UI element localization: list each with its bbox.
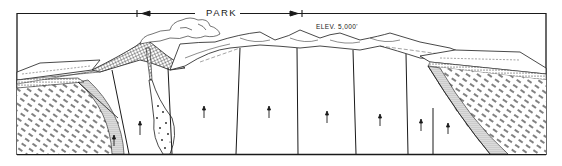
right-tilted-strata xyxy=(428,66,546,154)
arrow-up-icon xyxy=(379,114,382,126)
arrow-up-icon xyxy=(203,106,206,118)
arrow-up-icon xyxy=(268,106,271,118)
arrow-right-icon xyxy=(290,11,298,16)
arrow-up-icon xyxy=(326,111,329,123)
park-label: PARK xyxy=(206,8,237,18)
park-extent-arrow xyxy=(17,10,546,17)
arrow-up-icon xyxy=(420,119,423,131)
arrow-left-icon xyxy=(142,11,150,16)
left-folded-strata xyxy=(17,78,124,154)
steam-plume xyxy=(140,18,220,44)
arrow-up-icon xyxy=(447,123,450,134)
elevation-label: ELEV. 5,000' xyxy=(316,24,358,31)
arrow-up-icon xyxy=(139,121,142,135)
geologic-cross-section xyxy=(0,0,562,166)
